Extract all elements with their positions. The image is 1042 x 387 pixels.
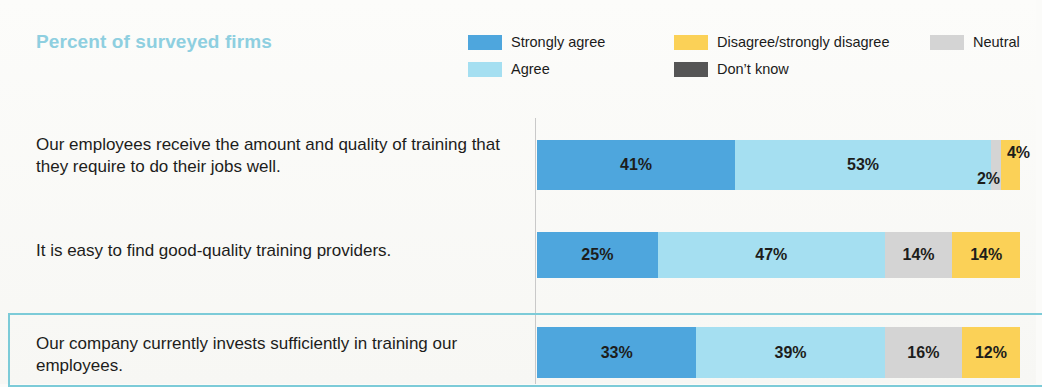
- bar-segment-value: 33%: [601, 344, 633, 362]
- legend-swatch-dont-know: [674, 62, 708, 77]
- bar-segment: 53%: [735, 140, 991, 190]
- bar-segment: 39%: [696, 327, 884, 378]
- bar-segment-value: 25%: [581, 246, 613, 264]
- bar-segment-value: 14%: [970, 246, 1002, 264]
- category-axis-line: [535, 118, 536, 384]
- bar-segment: 16%: [885, 327, 962, 378]
- stacked-bar: 25%47%14%14%: [537, 232, 1020, 278]
- row-label: It is easy to find good-quality training…: [36, 240, 516, 262]
- legend-item-neutral[interactable]: Neutral: [930, 35, 1020, 50]
- bar-segment: 14%: [952, 232, 1020, 278]
- bar-segment-value: 47%: [755, 246, 787, 264]
- bar-segment-value: 14%: [903, 246, 935, 264]
- legend-label-disagree: Disagree/strongly disagree: [717, 35, 889, 50]
- bar-segment: 12%: [962, 327, 1020, 378]
- bar-segment: 14%: [885, 232, 953, 278]
- bar-segment-value: 39%: [775, 344, 807, 362]
- legend-swatch-strongly-agree: [468, 35, 502, 50]
- legend-label-neutral: Neutral: [973, 35, 1020, 50]
- bar-segment: 41%: [537, 140, 735, 190]
- row-label: Our employees receive the amount and qua…: [36, 134, 516, 178]
- legend-item-dont-know[interactable]: Don’t know: [674, 62, 789, 77]
- bar-segment-value: 41%: [620, 156, 652, 174]
- stacked-bar: 41%53%: [537, 140, 1020, 190]
- legend-label-agree: Agree: [511, 62, 550, 77]
- legend-item-disagree[interactable]: Disagree/strongly disagree: [674, 35, 889, 50]
- legend-swatch-neutral: [930, 35, 964, 50]
- bar-segment: 47%: [658, 232, 885, 278]
- value-callout-disagree: 4%: [1007, 144, 1030, 162]
- bar-segment-value: 12%: [975, 344, 1007, 362]
- page-title: Percent of surveyed firms: [36, 31, 272, 53]
- legend-swatch-disagree: [674, 35, 708, 50]
- bar-segment-value: 53%: [847, 156, 879, 174]
- legend-swatch-agree: [468, 62, 502, 77]
- legend-item-agree[interactable]: Agree: [468, 62, 550, 77]
- value-callout-neutral: 2%: [977, 170, 1000, 188]
- row-label: Our company currently invests sufficient…: [36, 333, 516, 377]
- stacked-bar: 33%39%16%12%: [537, 327, 1020, 378]
- chart-legend: Strongly agree Agree Disagree/strongly d…: [468, 34, 1028, 86]
- legend-label-strongly-agree: Strongly agree: [511, 35, 605, 50]
- legend-label-dont-know: Don’t know: [717, 62, 789, 77]
- bar-segment-value: 16%: [907, 344, 939, 362]
- bar-segment: 25%: [537, 232, 658, 278]
- legend-item-strongly-agree[interactable]: Strongly agree: [468, 35, 605, 50]
- bar-segment: 33%: [537, 327, 696, 378]
